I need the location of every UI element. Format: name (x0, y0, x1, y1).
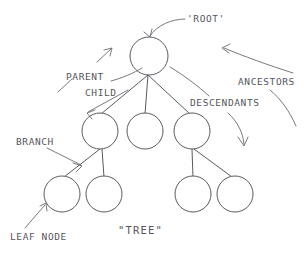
node-leaf-4[interactable] (217, 176, 253, 212)
node-leaf-2[interactable] (86, 176, 122, 212)
node-mid-3[interactable] (174, 113, 210, 149)
leader-line-parent (97, 49, 111, 62)
leader-line-leaf-node (25, 205, 45, 228)
edge-mid-1-to-leaf-2 (102, 149, 104, 177)
leader-parent (58, 48, 112, 92)
node-mid-2[interactable] (127, 113, 163, 149)
label-parent: PARENT (66, 71, 104, 82)
tree-diagram: 'ROOT' PARENT CHILD ANCESTORS DESCENDANT… (0, 0, 307, 253)
leader-line-descendants-to-root (170, 67, 209, 96)
edge-mid-3-to-leaf-4 (194, 149, 232, 177)
leader-line-descendants (228, 113, 244, 144)
label-child: CHILD (85, 87, 117, 98)
leader-line-branch (47, 148, 81, 165)
edge-root-to-mid-3 (148, 75, 190, 114)
node-root[interactable] (130, 37, 168, 75)
label-leaf-node: LEAF NODE (10, 231, 67, 242)
node-leaf-3[interactable] (175, 176, 211, 212)
leader-root (144, 19, 185, 37)
node-group (44, 37, 253, 212)
leader-line-ancestors (224, 48, 293, 73)
node-leaf-1[interactable] (44, 176, 80, 212)
edge-group-leaves (64, 149, 232, 177)
label-descendants: DESCENDANTS (190, 97, 260, 108)
leader-tail-ancestors (270, 90, 296, 126)
label-root: 'ROOT' (187, 13, 225, 24)
label-ancestors: ANCESTORS (238, 76, 295, 87)
tree-diagram-canvas: 'ROOT' PARENT CHILD ANCESTORS DESCENDANT… (0, 0, 307, 253)
edge-root-to-mid-2 (145, 75, 148, 114)
edge-mid-3-to-leaf-3 (192, 149, 193, 177)
leader-line-root (150, 19, 185, 36)
arrow-head-root-icon (144, 29, 152, 37)
caption-tree: "TREE" (118, 224, 163, 236)
leader-branch (47, 148, 82, 172)
label-branch: BRANCH (16, 136, 54, 147)
leader-leaf-node (25, 203, 47, 228)
node-mid-1[interactable] (82, 113, 118, 149)
edge-mid-1-to-leaf-1 (64, 149, 100, 177)
